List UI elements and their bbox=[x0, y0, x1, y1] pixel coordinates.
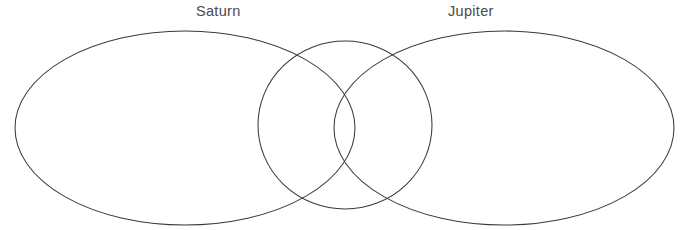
venn-circle-intersection bbox=[258, 41, 432, 209]
venn-circle-saturn bbox=[15, 31, 355, 225]
venn-shapes-svg bbox=[0, 0, 689, 230]
venn-circle-jupiter bbox=[334, 31, 674, 225]
venn-diagram-canvas: Saturn Jupiter bbox=[0, 0, 689, 230]
